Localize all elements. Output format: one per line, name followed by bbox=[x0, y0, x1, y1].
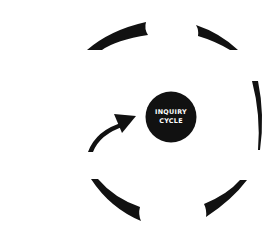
ring-segment-bottom-right bbox=[204, 180, 247, 217]
ring-segment-top-left bbox=[87, 22, 148, 50]
ring-segment-top-right bbox=[196, 25, 238, 50]
ring-segment-bottom-left bbox=[91, 179, 141, 221]
ring-segment-right bbox=[252, 81, 262, 150]
center-label-line2: CYCLE bbox=[159, 117, 183, 126]
center-label: INQUIRY CYCLE bbox=[146, 92, 196, 142]
inquiry-cycle-diagram bbox=[0, 0, 280, 234]
center-label-line1: INQUIRY bbox=[155, 108, 187, 117]
arrow-head-icon bbox=[114, 114, 136, 133]
